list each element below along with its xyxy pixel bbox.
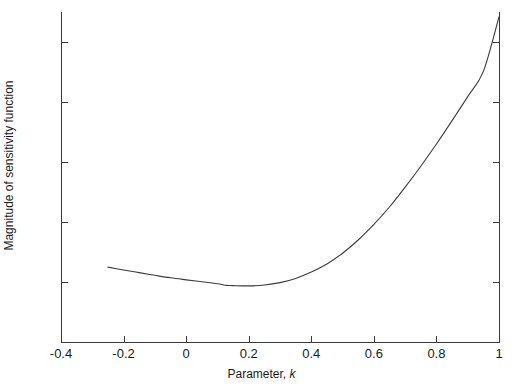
sensitivity-curve-path (108, 17, 499, 286)
x-tick-label: 0 (183, 347, 190, 360)
x-tick-label: 0.8 (427, 347, 445, 360)
x-axis-title: Parameter, k (0, 367, 523, 381)
plot-area (61, 12, 500, 343)
x-tick-label: 1 (495, 347, 502, 360)
sensitivity-curve (61, 12, 500, 343)
x-tick-label: 0.2 (240, 347, 258, 360)
y-axis-title: Magnitude of sensitivity function (0, 0, 18, 331)
x-tick-label: 0.4 (302, 347, 320, 360)
x-axis-title-prefix: Parameter, (227, 367, 289, 381)
figure-canvas: 0.511.522.53 -0.4-0.200.20.40.60.81 Magn… (0, 0, 523, 387)
x-axis-title-variable: k (290, 367, 296, 381)
x-tick-label: 0.6 (365, 347, 383, 360)
x-tick-label: -0.2 (112, 347, 134, 360)
x-tick-label: -0.4 (50, 347, 72, 360)
